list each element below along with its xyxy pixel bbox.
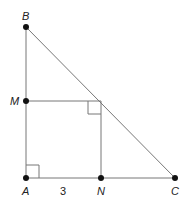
point-n <box>98 175 104 181</box>
right-angle-mark-p <box>88 101 101 114</box>
diagram-canvas: B M A 3 N C <box>0 0 189 200</box>
point-c <box>172 175 178 181</box>
label-n: N <box>97 186 105 197</box>
point-b <box>23 24 29 30</box>
label-an-length: 3 <box>60 186 66 197</box>
triangle-figure <box>0 0 189 200</box>
label-a: A <box>22 186 29 197</box>
label-b: B <box>22 11 29 22</box>
label-m: M <box>10 96 19 107</box>
point-m <box>23 98 29 104</box>
label-c: C <box>171 186 179 197</box>
point-a <box>23 175 29 181</box>
